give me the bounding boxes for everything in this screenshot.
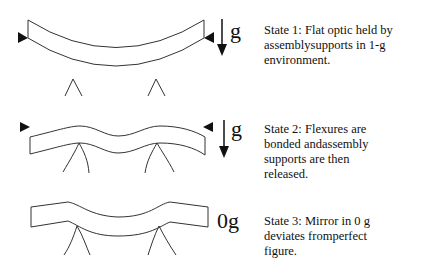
state2-optic xyxy=(30,126,205,155)
state2-flexure-right xyxy=(145,143,174,173)
state2-flexure-left xyxy=(63,143,89,173)
state1-optic xyxy=(28,20,204,66)
state3-optic xyxy=(31,202,208,236)
state2-gravity-arrow-icon xyxy=(219,146,229,158)
state2-clamp-right-icon xyxy=(203,122,213,132)
state1-clamp-right-icon xyxy=(204,32,214,43)
state1-gravity-arrow-icon xyxy=(217,44,227,56)
state2-caption: State 2: Flexures are bonded andassembly… xyxy=(264,122,369,182)
state2-gravity-label: g xyxy=(231,118,242,140)
state1-support-right xyxy=(148,79,165,96)
state1-gravity-label: g xyxy=(230,20,241,42)
state2-clamp-left-icon xyxy=(20,122,30,132)
state1-support-left xyxy=(65,79,82,96)
state1-caption: State 1: Flat optic held by assemblysupp… xyxy=(264,23,393,68)
state3-caption: State 3: Mirror in 0 g deviates fromperf… xyxy=(264,214,370,259)
state1-clamp-left-icon xyxy=(18,32,28,43)
state3-gravity-label: 0g xyxy=(217,210,239,232)
